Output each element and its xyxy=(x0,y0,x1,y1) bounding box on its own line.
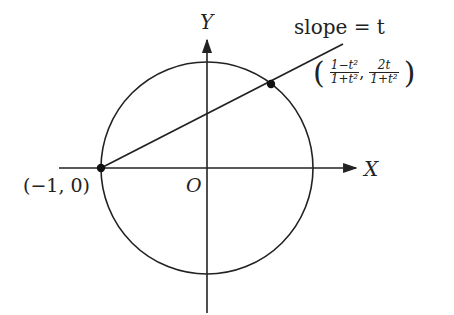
slope-label-text: slope = t xyxy=(294,15,385,39)
coordinate-separator: , xyxy=(359,63,364,82)
x-numerator: 1−t² xyxy=(330,59,359,73)
x-axis-label: X xyxy=(364,157,378,181)
diagram-canvas xyxy=(0,0,454,315)
origin-label: O xyxy=(186,174,202,196)
moving-point xyxy=(267,80,275,88)
x-coordinate-fraction: 1−t² 1+t² xyxy=(330,59,359,86)
y-axis-label: Y xyxy=(200,10,213,34)
right-paren: ) xyxy=(404,55,416,90)
slope-label: slope = t xyxy=(294,15,385,39)
y-numerator: 2t xyxy=(369,59,398,73)
y-coordinate-fraction: 2t 1+t² xyxy=(369,59,398,86)
left-paren: ( xyxy=(313,55,325,90)
x-denominator: 1+t² xyxy=(330,73,359,86)
fixed-point xyxy=(97,164,105,172)
y-denominator: 1+t² xyxy=(369,73,398,86)
fixed-point-label: (−1, 0) xyxy=(23,174,90,196)
moving-point-label: ( 1−t² 1+t² , 2t 1+t² ) xyxy=(313,55,415,90)
